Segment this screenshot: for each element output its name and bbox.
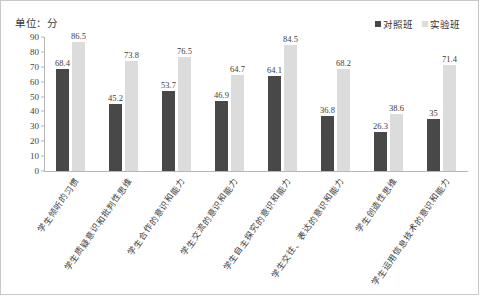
- bar-value-label: 53.7: [161, 80, 176, 90]
- bar-control[interactable]: 26.3: [374, 37, 387, 171]
- bar-value-label: 68.4: [55, 58, 70, 68]
- bar-value-label: 86.5: [71, 31, 86, 41]
- y-axis-tick-label: 0: [35, 166, 40, 176]
- bar-group: 46.964.7: [203, 37, 256, 171]
- bar-rect: [162, 91, 175, 171]
- legend-label-control: 对照班: [383, 17, 413, 31]
- bar-groups: 68.486.545.273.853.776.546.964.764.184.5…: [44, 37, 468, 171]
- bar-rect: [56, 69, 69, 171]
- bar-experiment[interactable]: 38.6: [390, 37, 403, 171]
- bar-rect: [268, 76, 281, 171]
- bar-experiment[interactable]: 86.5: [72, 37, 85, 171]
- legend-label-experiment: 实验班: [430, 17, 460, 31]
- x-axis-labels: 学生倾听的习惯学生质疑意识和批判性思维学生合作的意识和能力学生交流的意识和能力学…: [44, 173, 468, 283]
- bar-rect: [231, 75, 244, 171]
- x-axis: [44, 171, 468, 172]
- bar-rect: [284, 45, 297, 171]
- x-axis-category-label: 学生倾听的习惯: [34, 175, 81, 235]
- bar-value-label: 84.5: [283, 34, 298, 44]
- bar-control[interactable]: 45.2: [109, 37, 122, 171]
- legend-item-experiment[interactable]: 实验班: [422, 17, 460, 31]
- legend-swatch-experiment: [422, 21, 428, 27]
- bar-control[interactable]: 36.8: [321, 37, 334, 171]
- bar-value-label: 35: [429, 108, 438, 118]
- y-axis-tick-label: 10: [30, 151, 39, 161]
- legend-item-control[interactable]: 对照班: [375, 17, 413, 31]
- bar-rect: [390, 114, 403, 171]
- bar-value-label: 64.1: [267, 65, 282, 75]
- bar-rect: [109, 104, 122, 171]
- bar-rect: [374, 132, 387, 171]
- bar-value-label: 68.2: [336, 58, 351, 68]
- bar-value-label: 26.3: [373, 121, 388, 131]
- bar-group: 45.273.8: [97, 37, 150, 171]
- bar-rect: [215, 101, 228, 171]
- bar-experiment[interactable]: 68.2: [337, 37, 350, 171]
- x-axis-label-slot: 学生运用信息技术的意识和能力: [415, 173, 468, 283]
- bar-control[interactable]: 46.9: [215, 37, 228, 171]
- bar-group: 36.868.2: [309, 37, 362, 171]
- bar-rect: [443, 65, 456, 171]
- unit-caption: 单位：分: [15, 15, 57, 30]
- bar-value-label: 64.7: [230, 64, 245, 74]
- bar-experiment[interactable]: 76.5: [178, 37, 191, 171]
- bar-value-label: 46.9: [214, 90, 229, 100]
- legend-swatch-control: [375, 21, 381, 27]
- y-axis-tick-label: 40: [30, 106, 39, 116]
- bar-group: 26.338.6: [362, 37, 415, 171]
- bar-group: 68.486.5: [44, 37, 97, 171]
- bar-rect: [125, 61, 138, 171]
- bar-experiment[interactable]: 84.5: [284, 37, 297, 171]
- bar-rect: [178, 57, 191, 171]
- y-axis-tick-label: 80: [30, 47, 39, 57]
- plot-area: 0102030405060708090 68.486.545.273.853.7…: [44, 37, 468, 171]
- bar-control[interactable]: 68.4: [56, 37, 69, 171]
- bar-group: 3571.4: [415, 37, 468, 171]
- bar-group: 64.184.5: [256, 37, 309, 171]
- bar-value-label: 38.6: [389, 103, 404, 113]
- y-axis-tick-label: 90: [30, 32, 39, 42]
- bar-group: 53.776.5: [150, 37, 203, 171]
- bar-experiment[interactable]: 64.7: [231, 37, 244, 171]
- bar-value-label: 76.5: [177, 46, 192, 56]
- bar-rect: [321, 116, 334, 171]
- y-axis-tick-label: 30: [30, 121, 39, 131]
- bar-control[interactable]: 35: [427, 37, 440, 171]
- bar-value-label: 45.2: [108, 93, 123, 103]
- bar-value-label: 73.8: [124, 50, 139, 60]
- bar-experiment[interactable]: 71.4: [443, 37, 456, 171]
- bar-value-label: 71.4: [442, 54, 457, 64]
- chart-legend: 对照班 实验班: [375, 17, 460, 31]
- chart-container: 单位：分 对照班 实验班 0102030405060708090 68.486.…: [0, 0, 479, 295]
- bar-rect: [72, 42, 85, 171]
- y-axis-tick-label: 20: [30, 136, 39, 146]
- bar-rect: [337, 69, 350, 171]
- bar-rect: [427, 119, 440, 171]
- bar-control[interactable]: 64.1: [268, 37, 281, 171]
- y-axis-tick-label: 50: [30, 92, 39, 102]
- y-axis-tick-label: 70: [30, 62, 39, 72]
- bar-experiment[interactable]: 73.8: [125, 37, 138, 171]
- bar-value-label: 36.8: [320, 105, 335, 115]
- bar-control[interactable]: 53.7: [162, 37, 175, 171]
- y-axis-tick-label: 60: [30, 77, 39, 87]
